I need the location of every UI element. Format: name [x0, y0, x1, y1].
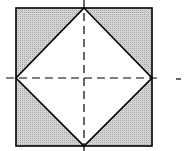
- square-diamond-diagram: [0, 0, 186, 151]
